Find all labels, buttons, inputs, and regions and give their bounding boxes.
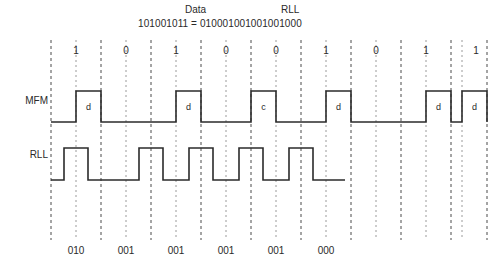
mfm-pulse-label: d <box>327 102 351 112</box>
bit-label: 1 <box>151 45 201 56</box>
grid-major-lines <box>51 40 487 240</box>
bit-label: 1 <box>51 45 101 56</box>
rll-code-label: 001 <box>251 245 301 256</box>
data-column-title: Data <box>185 4 206 15</box>
bit-label: 0 <box>101 45 151 56</box>
grid-minor-lines <box>76 40 462 240</box>
mfm-pulse-label: c <box>252 102 276 112</box>
mfm-pulse-label: d <box>177 102 201 112</box>
rll-waveform-trace <box>51 148 345 180</box>
rll-code-label: 000 <box>301 245 351 256</box>
rll-code-label: 001 <box>201 245 251 256</box>
rll-code-label: 001 <box>101 245 151 256</box>
rll-column-title: RLL <box>281 4 299 15</box>
bit-label: 0 <box>351 45 401 56</box>
bit-label: 0 <box>251 45 301 56</box>
rll-code-label: 010 <box>51 245 101 256</box>
bit-label: 1 <box>451 45 501 56</box>
mfm-pulse-label: d <box>427 102 451 112</box>
bit-label: 1 <box>301 45 351 56</box>
mfm-pulse-label: d <box>463 102 487 112</box>
rll-code-label: 001 <box>151 245 201 256</box>
row-label-rll: RLL <box>8 149 48 160</box>
encoding-equation: 101001011 = 010001001001001000 <box>138 18 302 29</box>
mfm-pulse-label: d <box>77 102 101 112</box>
bit-label: 1 <box>401 45 451 56</box>
bit-label: 0 <box>201 45 251 56</box>
row-label-mfm: MFM <box>8 95 48 106</box>
rll-mfm-waveform-diagram <box>0 0 502 277</box>
